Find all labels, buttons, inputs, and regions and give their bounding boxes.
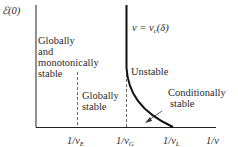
region-unstable: Unstable — [131, 66, 168, 77]
tick-label-ve: 1/vE — [67, 135, 84, 147]
stability-diagram: ℰ(0) v = vc(δ) Globally and monotonicall… — [0, 0, 238, 147]
y-axis-label: ℰ(0) — [2, 5, 20, 16]
tick-label-vg: 1/vG — [116, 135, 134, 147]
tick-label-vl: 1/vL — [163, 135, 180, 147]
region-conditionally-stable: Conditionally stable — [168, 87, 226, 109]
pointer-arrow-head — [145, 117, 152, 123]
x-axis-label: 1/v — [206, 135, 219, 146]
curve-label: v = vc(δ) — [132, 22, 169, 37]
diagram-graphics — [0, 0, 238, 147]
region-globally-monotonically-stable: Globally and monotonically stable — [38, 35, 99, 79]
region-globally-stable: Globally stable — [82, 90, 119, 112]
pointer-arrow-line — [149, 111, 162, 120]
